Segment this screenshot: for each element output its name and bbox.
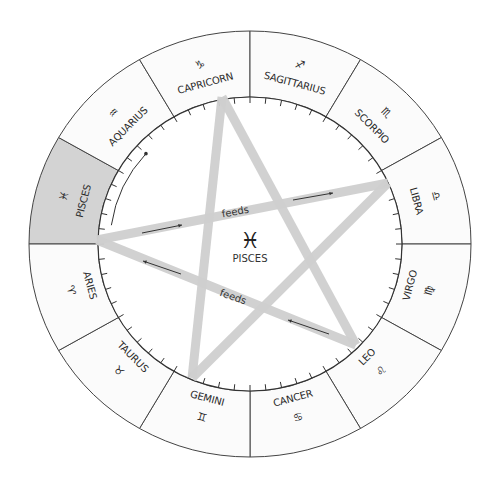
tick-mark: [234, 98, 235, 104]
progress-arc-dot: [144, 152, 148, 156]
tick-mark: [265, 98, 266, 104]
tick-mark: [99, 259, 105, 260]
tick-mark: [99, 229, 105, 230]
tick-mark: [265, 384, 266, 390]
zodiac-wheel-diagram: PISCES♓AQUARIUS♒CAPRICORN♑SAGITTARIUS♐SC…: [0, 0, 496, 486]
center-pisces-glyph-icon: ♓: [240, 228, 260, 253]
tick-mark: [395, 259, 401, 260]
tick-mark: [234, 384, 235, 390]
center-pisces-label: PISCES: [233, 253, 268, 264]
tick-mark: [395, 229, 401, 230]
